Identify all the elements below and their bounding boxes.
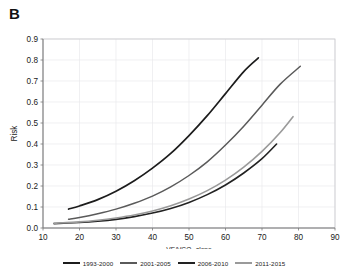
y-tick-label: 0.3 <box>27 161 39 170</box>
chart-svg: 0.00.10.20.30.40.50.60.70.80.9 102030405… <box>0 24 348 249</box>
series-line-1993-2000 <box>69 58 259 209</box>
x-axis-title-main: VE/VCO2 slope <box>166 246 212 249</box>
figure-panel-b: B 0.00.10.20.30.40.50.60.70.80.9 1020304… <box>0 0 348 275</box>
legend-label-2011-2015: 2011-2015 <box>255 260 285 267</box>
x-tick-label: 60 <box>221 233 231 242</box>
x-tick-label: 80 <box>294 233 304 242</box>
y-tick-label: 0.9 <box>27 35 39 44</box>
y-tick-label: 0.4 <box>27 140 39 149</box>
legend-swatch-2011-2015 <box>235 262 252 264</box>
y-axis-tick-labels: 0.00.10.20.30.40.50.60.70.80.9 <box>27 35 43 233</box>
y-tick-label: 0.2 <box>27 182 39 191</box>
legend-entry-2006-2010: 2006-2010 <box>178 260 229 267</box>
x-tick-label: 20 <box>75 233 85 242</box>
legend-entry-2001-2005: 2001-2005 <box>120 260 171 267</box>
series-line-2006-2010 <box>54 144 277 224</box>
panel-label: B <box>9 6 20 21</box>
x-tick-label: 90 <box>330 233 340 242</box>
legend-label-2006-2010: 2006-2010 <box>198 260 229 267</box>
chart-legend: 1993-20002001-20052006-20102011-2015 <box>0 256 348 270</box>
y-tick-label: 0.8 <box>27 56 39 65</box>
legend-label-2001-2005: 2001-2005 <box>140 260 171 267</box>
y-tick-label: 0.6 <box>27 98 39 107</box>
legend-entry-1993-2000: 1993-2000 <box>63 260 114 267</box>
risk-vs-ve-vco2-chart: 0.00.10.20.30.40.50.60.70.80.9 102030405… <box>0 24 348 249</box>
x-tick-label: 30 <box>111 233 121 242</box>
x-axis-title: VE/VCO2 slope <box>166 246 212 249</box>
legend-entry-2011-2015: 2011-2015 <box>235 260 285 267</box>
series-lines <box>54 58 300 224</box>
x-tick-label: 50 <box>184 233 194 242</box>
legend-label-1993-2000: 1993-2000 <box>83 260 114 267</box>
x-tick-label: 70 <box>257 233 267 242</box>
x-tick-label: 40 <box>148 233 158 242</box>
legend-swatch-2006-2010 <box>178 262 195 264</box>
legend-swatch-1993-2000 <box>63 262 80 264</box>
y-tick-label: 0.5 <box>27 119 39 128</box>
y-axis-title: Risk <box>10 125 19 142</box>
x-axis-tick-labels: 102030405060708090 <box>38 233 340 242</box>
series-line-2001-2005 <box>69 66 301 219</box>
y-tick-label: 0.0 <box>27 224 39 233</box>
y-tick-label: 0.7 <box>27 77 39 86</box>
x-tick-label: 10 <box>38 233 48 242</box>
legend-swatch-2001-2005 <box>120 262 137 264</box>
y-tick-label: 0.1 <box>27 203 39 212</box>
